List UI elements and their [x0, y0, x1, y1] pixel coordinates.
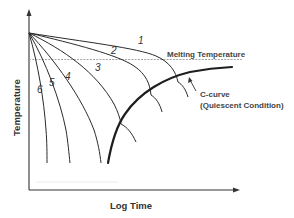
cooling-curve-6: [29, 33, 47, 163]
cooling-curve-3-tail: [121, 124, 136, 142]
y-axis-arrow-icon: [27, 9, 32, 16]
curve-label-2: 2: [110, 45, 117, 56]
c-curve-condition-label: (Quiescent Condition): [200, 101, 284, 110]
cooling-curve-1-tail: [178, 82, 188, 97]
pointer-arrow-icon: [188, 77, 193, 83]
x-axis-label: Log Time: [110, 200, 152, 211]
c-curve: [108, 67, 232, 163]
x-axis: [29, 188, 240, 193]
c-curve-label: C-curve: [200, 90, 230, 99]
diagram-canvas: 1 2 3 4 5 6 Melting Temperature C-curve …: [0, 0, 294, 218]
cooling-curves: [29, 33, 188, 163]
curve-label-3: 3: [95, 62, 101, 73]
curve-label-5: 5: [49, 77, 55, 88]
curve-label-6: 6: [37, 84, 43, 95]
c-curve-pointer: [188, 77, 196, 91]
melting-temperature-label: Melting Temperature: [167, 50, 246, 59]
cooling-curve-1: [29, 33, 178, 82]
curve-label-1: 1: [138, 35, 144, 46]
curve-label-4: 4: [65, 71, 71, 82]
cooling-curve-2-tail: [151, 95, 162, 112]
x-axis-arrow-icon: [233, 188, 240, 193]
cooling-curve-3: [29, 33, 121, 124]
y-axis-label: Temperature: [11, 79, 22, 136]
